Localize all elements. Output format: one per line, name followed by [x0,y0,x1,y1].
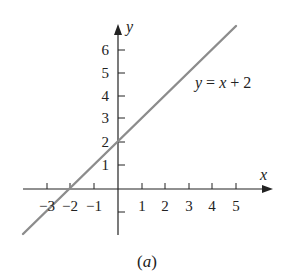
x-tick-labels: −3 −2 −1 1 2 3 4 5 [39,198,240,214]
svg-text:5: 5 [102,65,110,81]
svg-text:6: 6 [102,42,110,58]
chart: −3 −2 −1 1 2 3 4 5 1 2 3 4 5 6 x y y = x… [0,0,293,279]
svg-text:3: 3 [185,198,193,214]
svg-text:4: 4 [102,88,110,104]
y-axis-arrow-icon [114,24,122,35]
svg-text:1: 1 [102,157,110,173]
svg-text:2: 2 [161,198,169,214]
svg-text:−2: −2 [62,198,78,214]
svg-text:1: 1 [138,198,146,214]
figure-caption: (a) [137,252,157,271]
svg-text:−3: −3 [39,198,55,214]
svg-text:4: 4 [208,198,216,214]
equation-annotation: y = x + 2 [193,74,251,92]
y-axis-label: y [124,18,134,36]
svg-text:3: 3 [102,110,110,126]
x-axis-arrow-icon [262,185,273,193]
svg-text:2: 2 [102,134,110,150]
y-ticks [118,50,125,212]
svg-text:5: 5 [232,198,240,214]
x-axis-label: x [259,166,267,183]
svg-text:−1: −1 [86,198,102,214]
